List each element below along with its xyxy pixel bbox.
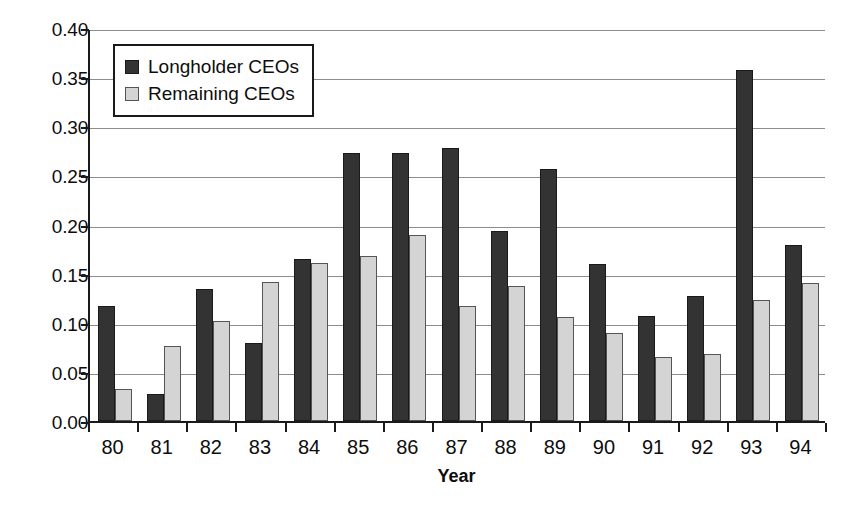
bar[interactable] [638, 316, 655, 421]
bar-group [343, 30, 377, 421]
bar-group [392, 30, 426, 421]
y-tick-label: 0.25 [22, 167, 88, 186]
dark-square-swatch-icon [125, 60, 139, 74]
bar-group [589, 30, 623, 421]
x-tick-mark [678, 423, 680, 432]
bar[interactable] [343, 153, 360, 421]
bar[interactable] [687, 296, 704, 421]
x-tick-mark [530, 423, 532, 432]
bar[interactable] [196, 289, 213, 421]
x-tick-label: 89 [544, 436, 566, 458]
bar[interactable] [147, 394, 164, 421]
legend-item-remaining-ceos[interactable]: Remaining CEOs [125, 80, 299, 107]
bar[interactable] [164, 346, 181, 421]
x-tick-label: 90 [593, 436, 615, 458]
x-tick-label: 94 [789, 436, 811, 458]
legend-item-label: Remaining CEOs [148, 83, 295, 104]
x-tick-label: 81 [151, 436, 173, 458]
bar[interactable] [98, 306, 115, 421]
x-tick-mark [383, 423, 385, 432]
bar-group [785, 30, 819, 421]
x-tick-mark [432, 423, 434, 432]
bar[interactable] [459, 306, 476, 421]
x-tick-mark [235, 423, 237, 432]
x-tick-label: 88 [495, 436, 517, 458]
light-square-swatch-icon [125, 87, 139, 101]
x-tick-label: 80 [101, 436, 123, 458]
bar[interactable] [442, 148, 459, 421]
bar[interactable] [802, 283, 819, 421]
bar[interactable] [508, 286, 525, 421]
x-tick-mark [88, 423, 90, 432]
bar[interactable] [753, 300, 770, 421]
bar[interactable] [540, 169, 557, 422]
x-tick-mark [285, 423, 287, 432]
x-tick-label: 87 [445, 436, 467, 458]
bar[interactable] [294, 259, 311, 421]
bar[interactable] [655, 357, 672, 421]
y-tick-label: 0.05 [22, 364, 88, 383]
x-tick-mark [776, 423, 778, 432]
bar-group [442, 30, 476, 421]
x-tick-mark [727, 423, 729, 432]
bar[interactable] [736, 70, 753, 421]
x-tick-mark [334, 423, 336, 432]
x-tick-label: 92 [691, 436, 713, 458]
bar-group [687, 30, 721, 421]
x-tick-mark [137, 423, 139, 432]
bar-chart-figure: 0.400.350.300.250.200.150.100.050.00 808… [0, 0, 845, 515]
bar[interactable] [589, 264, 606, 421]
bar[interactable] [491, 231, 508, 421]
x-tick-label: 91 [642, 436, 664, 458]
x-tick-mark [579, 423, 581, 432]
x-tick-mark [825, 423, 827, 432]
x-tick-mark [481, 423, 483, 432]
bar[interactable] [409, 235, 426, 421]
bar[interactable] [557, 317, 574, 421]
bar[interactable] [606, 333, 623, 421]
x-axis-title: Year [88, 466, 825, 487]
chart-legend: Longholder CEOs Remaining CEOs [113, 44, 314, 117]
x-tick-label: 93 [740, 436, 762, 458]
bar[interactable] [704, 354, 721, 421]
x-tick-mark [628, 423, 630, 432]
bar-group [540, 30, 574, 421]
y-tick-label: 0.00 [22, 413, 88, 432]
bar[interactable] [245, 343, 262, 421]
legend-item-label: Longholder CEOs [148, 56, 299, 77]
x-tick-label: 83 [249, 436, 271, 458]
bar[interactable] [213, 321, 230, 421]
bar-group [638, 30, 672, 421]
x-tick-label: 85 [347, 436, 369, 458]
y-tick-label: 0.35 [22, 69, 88, 88]
bar-group [491, 30, 525, 421]
x-tick-label: 82 [200, 436, 222, 458]
x-tick-label: 86 [396, 436, 418, 458]
bar[interactable] [115, 389, 132, 421]
bar[interactable] [311, 263, 328, 421]
y-tick-label: 0.40 [22, 20, 88, 39]
y-tick-label: 0.30 [22, 118, 88, 137]
y-tick-label: 0.20 [22, 217, 88, 236]
x-tick-mark [186, 423, 188, 432]
bar[interactable] [262, 282, 279, 421]
y-tick-label: 0.15 [22, 266, 88, 285]
bar[interactable] [392, 153, 409, 421]
bar[interactable] [360, 256, 377, 421]
bar-group [736, 30, 770, 421]
y-axis: 0.400.350.300.250.200.150.100.050.00 [0, 0, 88, 515]
y-tick-label: 0.10 [22, 315, 88, 334]
legend-item-longholder-ceos[interactable]: Longholder CEOs [125, 53, 299, 80]
bar[interactable] [785, 245, 802, 421]
x-tick-label: 84 [298, 436, 320, 458]
